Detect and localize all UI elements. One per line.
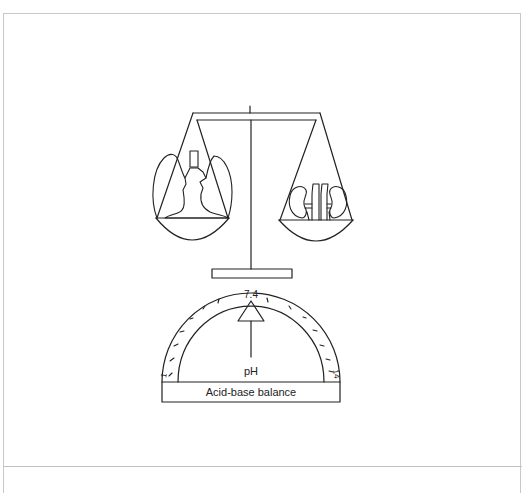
gauge-pointer-value: 7.4: [244, 289, 258, 300]
kidneys-icon: [289, 184, 346, 220]
gauge-pointer-triangle: [238, 301, 264, 321]
left-pan-bowl: [156, 218, 229, 240]
balance-scale: [156, 106, 353, 278]
gauge-caption: Acid-base balance: [206, 386, 297, 398]
gauge-quantity-label: pH: [244, 365, 258, 377]
gauge-scale-min: 1: [159, 372, 169, 378]
lungs-icon: [153, 151, 232, 218]
right-pan-string: [320, 113, 352, 220]
right-pan-string: [280, 120, 316, 220]
left-pan-string: [157, 113, 193, 218]
scale-base: [212, 269, 292, 278]
right-pan-bowl: [279, 220, 353, 241]
